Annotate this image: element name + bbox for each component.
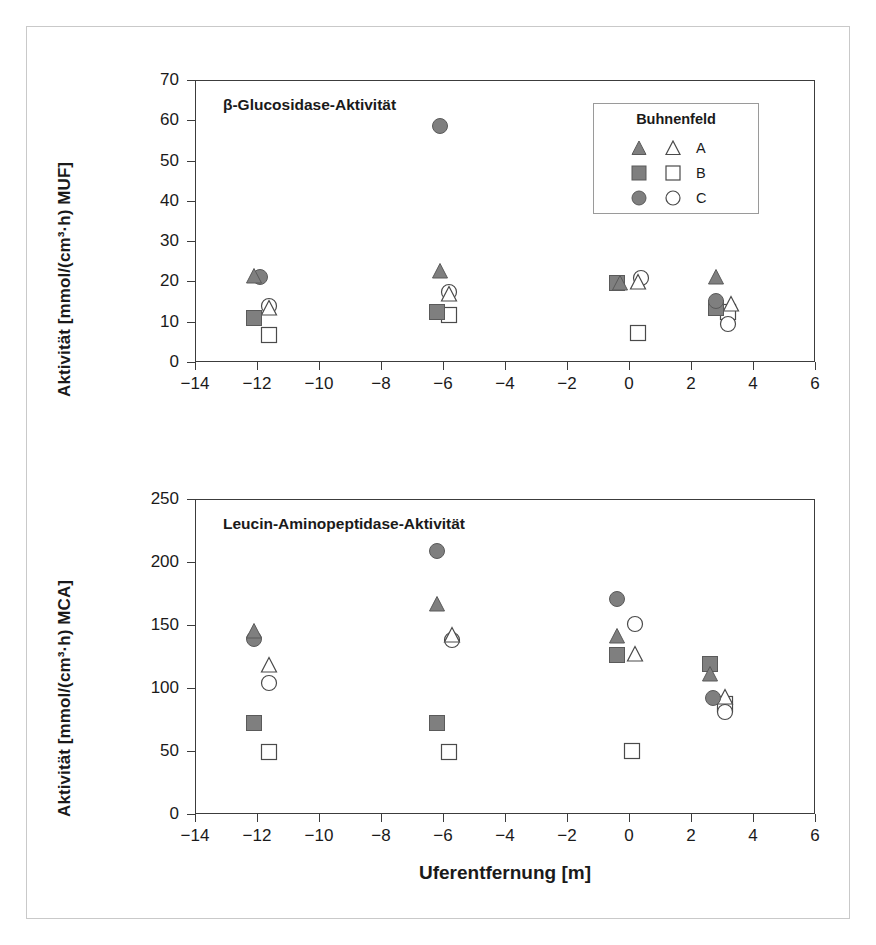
y-tick-mark <box>187 241 195 242</box>
legend-item-a: A <box>622 137 706 159</box>
legend-label: C <box>696 190 706 206</box>
x-tick-mark <box>567 814 568 822</box>
data-point-square-open <box>261 326 278 343</box>
legend-title: Buhnenfeld <box>594 111 758 127</box>
y-tick-mark <box>187 688 195 689</box>
legend-label: A <box>696 140 706 156</box>
y-tick-label: 100 <box>27 678 179 698</box>
data-point-square-filled <box>245 309 262 326</box>
x-tick-mark <box>319 814 320 822</box>
data-point-triangle-open <box>723 295 740 312</box>
x-axis-label: Uferentfernung [m] <box>195 862 815 884</box>
x-tick-label: −8 <box>371 374 390 394</box>
x-tick-mark <box>443 814 444 822</box>
data-point-circle-filled <box>608 590 625 607</box>
x-tick-label: −6 <box>433 826 452 846</box>
data-point-square-filled <box>245 715 262 732</box>
bottom-panel-title: Leucin-Aminopeptidase-Aktivität <box>223 515 465 533</box>
y-tick-label: 30 <box>27 231 179 251</box>
x-tick-label: 4 <box>748 374 757 394</box>
data-point-triangle-open <box>444 627 461 644</box>
legend-item-c: C <box>622 187 706 209</box>
x-tick-label: 4 <box>748 826 757 846</box>
x-tick-mark <box>815 362 816 370</box>
y-tick-label: 250 <box>27 489 179 509</box>
legend-marker-filled-circle-icon <box>622 190 656 206</box>
y-tick-mark <box>187 322 195 323</box>
x-tick-mark <box>753 362 754 370</box>
x-tick-label: −10 <box>305 826 334 846</box>
y-tick-label: 200 <box>27 552 179 572</box>
data-point-triangle-open <box>261 300 278 317</box>
data-point-triangle-filled <box>245 268 262 285</box>
data-point-square-open <box>441 744 458 761</box>
bottom-plot-frame <box>195 499 815 814</box>
x-tick-label: −8 <box>371 826 390 846</box>
y-tick-label: 50 <box>27 741 179 761</box>
data-point-square-open <box>261 744 278 761</box>
data-point-triangle-filled <box>431 262 448 279</box>
x-tick-label: −10 <box>305 374 334 394</box>
x-tick-label: −14 <box>181 826 210 846</box>
x-tick-label: −14 <box>181 374 210 394</box>
data-point-circle-filled <box>431 117 448 134</box>
legend: Buhnenfeld ABC <box>593 103 759 214</box>
data-point-triangle-filled <box>428 595 445 612</box>
x-tick-mark <box>381 814 382 822</box>
data-point-square-filled <box>608 647 625 664</box>
figure-container: Aktivität [mmol/(cm³·h) MUF] β-Glucosida… <box>26 26 850 919</box>
x-tick-mark <box>567 362 568 370</box>
legend-label: B <box>696 165 706 181</box>
data-point-circle-filled <box>428 542 445 559</box>
y-tick-mark <box>187 499 195 500</box>
x-tick-label: −2 <box>557 374 576 394</box>
x-tick-mark <box>195 814 196 822</box>
y-tick-mark <box>187 281 195 282</box>
y-tick-mark <box>187 625 195 626</box>
x-tick-label: −2 <box>557 826 576 846</box>
y-tick-label: 0 <box>27 352 179 372</box>
data-point-triangle-filled <box>701 666 718 683</box>
x-tick-mark <box>443 362 444 370</box>
x-tick-label: 6 <box>810 374 819 394</box>
data-point-circle-filled <box>704 690 721 707</box>
data-point-square-filled <box>428 303 445 320</box>
y-tick-mark <box>187 814 195 815</box>
y-tick-label: 150 <box>27 615 179 635</box>
data-point-triangle-filled <box>245 623 262 640</box>
y-tick-label: 40 <box>27 191 179 211</box>
data-point-circle-open <box>261 674 278 691</box>
y-tick-mark <box>187 201 195 202</box>
y-tick-label: 60 <box>27 110 179 130</box>
top-panel-title: β-Glucosidase-Aktivität <box>223 96 396 114</box>
x-tick-mark <box>319 362 320 370</box>
x-tick-mark <box>257 814 258 822</box>
x-tick-label: 2 <box>686 374 695 394</box>
y-tick-label: 70 <box>27 70 179 90</box>
y-tick-mark <box>187 562 195 563</box>
data-point-triangle-open <box>627 645 644 662</box>
data-point-triangle-filled <box>611 274 628 291</box>
y-tick-mark <box>187 80 195 81</box>
x-tick-mark <box>815 814 816 822</box>
y-tick-label: 50 <box>27 151 179 171</box>
x-tick-label: −12 <box>243 826 272 846</box>
x-tick-mark <box>381 362 382 370</box>
x-tick-mark <box>691 814 692 822</box>
x-tick-label: 0 <box>624 374 633 394</box>
legend-marker-filled-triangle-icon <box>622 140 656 156</box>
panel-leucin-aminopeptidase: Aktivität [mmol/(cm³·h) MCA] Leucin-Amin… <box>27 447 851 920</box>
y-tick-label: 0 <box>27 804 179 824</box>
x-tick-label: −4 <box>495 374 514 394</box>
x-tick-mark <box>691 362 692 370</box>
x-tick-mark <box>257 362 258 370</box>
x-tick-label: −12 <box>243 374 272 394</box>
data-point-triangle-filled <box>707 269 724 286</box>
data-point-triangle-open <box>441 285 458 302</box>
data-point-circle-open <box>720 315 737 332</box>
y-tick-mark <box>187 120 195 121</box>
x-tick-mark <box>505 362 506 370</box>
x-tick-mark <box>629 814 630 822</box>
y-tick-mark <box>187 751 195 752</box>
legend-marker-open-square-icon <box>656 165 690 181</box>
